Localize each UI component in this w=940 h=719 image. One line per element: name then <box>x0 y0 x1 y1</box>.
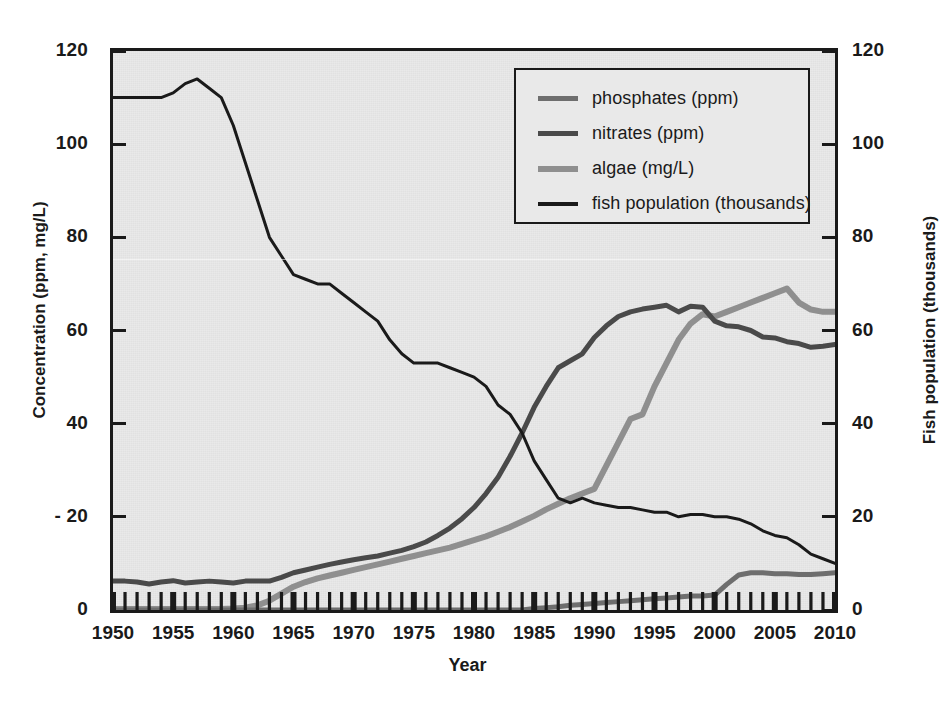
x-axis-tick-labels: 1950195519601965197019751980198519901995… <box>0 622 935 652</box>
x-tick-label-1980: 1980 <box>453 622 495 644</box>
y-tick-label-right-60: 60 <box>852 319 874 341</box>
x-tick-label-1965: 1965 <box>272 622 314 644</box>
x-tick-label-2000: 2000 <box>694 622 736 644</box>
legend-swatch-icon <box>538 202 578 206</box>
x-tick-label-1950: 1950 <box>92 622 134 644</box>
x-axis-tick-marks <box>113 592 835 610</box>
legend-item-phosphates[interactable]: phosphates (ppm) <box>538 81 808 116</box>
y-axis-right-title: Fish population (thousands) <box>920 140 940 520</box>
y-tick-label-left-20: - 20 <box>54 505 88 527</box>
y-tick-label-right-0: 0 <box>852 598 863 620</box>
series-line-algae <box>113 289 835 609</box>
y-tick-label-right-100: 100 <box>852 132 884 154</box>
legend-label: nitrates (ppm) <box>592 123 704 144</box>
legend-item-fish[interactable]: fish population (thousands) <box>538 186 808 221</box>
x-tick-label-1995: 1995 <box>633 622 675 644</box>
legend-swatch-icon <box>538 131 578 136</box>
y-tick-label-left-40: 40 <box>66 412 88 434</box>
y-tick-label-left-100: 100 <box>56 132 88 154</box>
y-tick-label-right-40: 40 <box>852 412 874 434</box>
x-tick-label-1960: 1960 <box>212 622 254 644</box>
y-tick-label-left-60: 60 <box>66 319 88 341</box>
legend-label: phosphates (ppm) <box>592 88 739 109</box>
x-tick-label-1970: 1970 <box>333 622 375 644</box>
y-axis-left-title: Concentration (ppm, mg/L) <box>30 120 50 500</box>
y-axis-right-labels: 020406080100120 <box>852 0 912 719</box>
chart-legend: phosphates (ppm)nitrates (ppm)algae (mg/… <box>514 68 810 224</box>
y-tick-label-left-120: 120 <box>56 39 88 61</box>
y-tick-label-left-80: 80 <box>66 225 88 247</box>
y-tick-label-right-80: 80 <box>852 225 874 247</box>
legend-label: algae (mg/L) <box>592 158 694 179</box>
x-tick-label-1955: 1955 <box>152 622 194 644</box>
legend-swatch-icon <box>538 166 578 172</box>
y-tick-label-right-20: 20 <box>852 505 874 527</box>
x-tick-label-2010: 2010 <box>814 622 856 644</box>
x-tick-label-1975: 1975 <box>393 622 435 644</box>
x-tick-label-1985: 1985 <box>513 622 555 644</box>
x-tick-label-2005: 2005 <box>754 622 796 644</box>
y-tick-label-left-0: 0 <box>77 598 88 620</box>
y-tick-label-right-120: 120 <box>852 39 884 61</box>
legend-item-nitrates[interactable]: nitrates (ppm) <box>538 116 808 151</box>
x-tick-label-1990: 1990 <box>573 622 615 644</box>
legend-label: fish population (thousands) <box>592 193 811 214</box>
legend-item-algae[interactable]: algae (mg/L) <box>538 151 808 186</box>
legend-swatch-icon <box>538 96 578 101</box>
x-axis-title: Year <box>0 655 935 676</box>
